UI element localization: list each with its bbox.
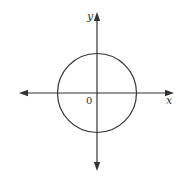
y-axis-bottom-arrowhead-icon	[94, 162, 100, 171]
y-axis-top-arrowhead-icon	[94, 12, 100, 21]
x-axis-left-arrowhead-icon	[19, 90, 28, 96]
x-axis-label: x	[166, 94, 173, 107]
coordinate-diagram: y x 0	[0, 0, 181, 183]
origin-label: 0	[86, 95, 92, 106]
y-axis-label: y	[86, 10, 94, 23]
